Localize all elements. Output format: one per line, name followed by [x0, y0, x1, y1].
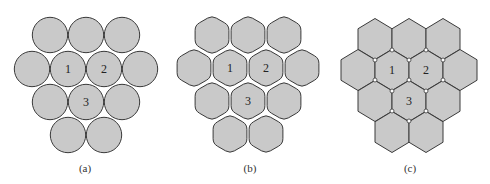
- panel-a-circle-packing: 123(a): [14, 17, 157, 175]
- junction-node: [424, 109, 428, 113]
- panel-c-hexagon-tiling: 123(c): [341, 19, 477, 176]
- junction-node: [441, 58, 445, 62]
- cell-circle: [68, 17, 103, 52]
- cell-rounded-hexagon: [249, 116, 283, 152]
- junction-node: [390, 109, 394, 113]
- panel-caption-b: (b): [244, 162, 257, 175]
- junction-node: [424, 89, 428, 93]
- cell-circle: [32, 84, 67, 119]
- panel-caption-c: (c): [404, 162, 417, 175]
- cell-rounded-hexagon: [195, 83, 229, 119]
- panel-caption-a: (a): [79, 162, 92, 175]
- junction-node: [390, 48, 394, 52]
- cell-label: 3: [245, 94, 251, 108]
- junction-node: [373, 78, 377, 82]
- cell-rounded-hexagon: [285, 50, 319, 86]
- cell-circle: [122, 51, 157, 86]
- junction-node: [390, 89, 394, 93]
- cell-label: 3: [406, 94, 412, 108]
- cell-label: 2: [423, 63, 429, 77]
- packing-diagram: 123(a) 123(b) 123(c): [0, 0, 490, 184]
- junction-node: [441, 78, 445, 82]
- cell-label: 2: [101, 62, 107, 76]
- cell-circle: [50, 117, 85, 152]
- cell-label: 2: [263, 61, 269, 75]
- junction-node: [424, 48, 428, 52]
- cell-label: 1: [389, 63, 395, 77]
- cell-label: 3: [83, 95, 89, 109]
- junction-node: [407, 58, 411, 62]
- panel-b-rounded-hexagon-packing: 123(b): [177, 17, 319, 175]
- cell-circle: [14, 51, 49, 86]
- cell-circle: [32, 17, 67, 52]
- cell-rounded-hexagon: [231, 17, 265, 53]
- cell-label: 1: [227, 61, 233, 75]
- junction-node: [407, 78, 411, 82]
- cell-rounded-hexagon: [213, 116, 247, 152]
- cell-rounded-hexagon: [177, 50, 211, 86]
- figure: 123(a) 123(b) 123(c): [0, 0, 490, 184]
- cell-rounded-hexagon: [267, 17, 301, 53]
- cell-rounded-hexagon: [267, 83, 301, 119]
- cell-circle: [104, 84, 139, 119]
- cell-circle: [104, 17, 139, 52]
- cell-circle: [86, 117, 121, 152]
- cell-label: 1: [65, 62, 71, 76]
- junction-node: [407, 119, 411, 123]
- junction-node: [373, 58, 377, 62]
- cell-rounded-hexagon: [195, 17, 229, 53]
